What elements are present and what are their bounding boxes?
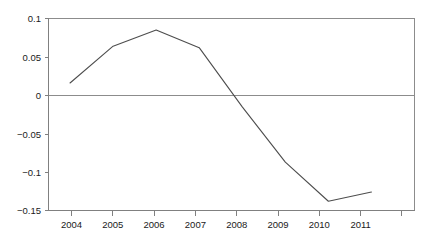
y-tick-label-2: 0 [36,90,41,101]
plot-background [49,19,415,211]
x-tick-label-2007: 2007 [185,219,206,230]
x-tick-marks [72,211,402,216]
x-tick-label-2011: 2011 [350,219,370,230]
x-tick-label-2005: 2005 [102,219,123,230]
x-tick-label-2010: 2010 [309,219,330,230]
y-tick-label-3: −0.05 [17,129,41,140]
chart-container: 0.1 0.05 0 −0.05 −0.1 −0.15 2004 2005 20… [0,0,431,243]
x-tick-label-2008: 2008 [226,219,247,230]
y-tick-label-4: −0.1 [22,167,41,178]
y-tick-marks [45,19,49,211]
y-tick-label-0: 0.1 [28,13,41,24]
y-tick-label-1: 0.05 [23,52,42,63]
line-chart: 0.1 0.05 0 −0.05 −0.1 −0.15 2004 2005 20… [0,0,431,243]
x-tick-label-2004: 2004 [61,219,82,230]
x-tick-label-2009: 2009 [267,219,288,230]
x-tick-label-2006: 2006 [144,219,165,230]
y-tick-label-5: −0.15 [17,205,41,216]
